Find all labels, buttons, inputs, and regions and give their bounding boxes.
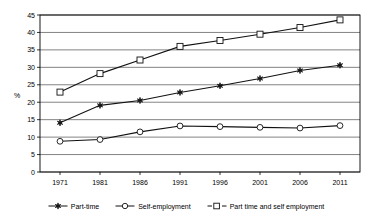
legend-item-1[interactable]: Part-time (48, 201, 99, 211)
data-point-marker (177, 43, 183, 49)
data-point-marker (57, 138, 63, 144)
data-point-marker (57, 120, 62, 126)
y-tick-label: 45 (27, 12, 35, 19)
plot-frame (40, 15, 360, 172)
y-tick-label: 0 (31, 169, 35, 176)
x-tick-label: 1971 (52, 179, 68, 186)
y-tick-label: 30 (27, 64, 35, 71)
x-tick-label: 2001 (252, 179, 268, 186)
legend-circle-open-icon (115, 201, 135, 211)
chart-legend: Part-timeSelf-employmentPart time and se… (0, 196, 372, 216)
legend-label: Self-employment (138, 203, 191, 210)
legend-star-filled-icon (48, 201, 68, 211)
data-point-marker (337, 17, 343, 23)
y-tick-label: 10 (27, 134, 35, 141)
y-tick-label: 40 (27, 29, 35, 36)
data-point-marker (337, 123, 343, 129)
data-point-marker (97, 71, 103, 77)
x-tick-label: 1986 (132, 179, 148, 186)
y-tick-label: 25 (27, 81, 35, 88)
y-axis-title: % (14, 92, 20, 99)
legend-square-open-icon (207, 201, 227, 211)
legend-label: Part-time (71, 203, 99, 210)
data-point-marker (97, 137, 103, 143)
data-point-marker (257, 124, 263, 130)
x-tick-label: 2011 (332, 179, 347, 186)
chart-plot-area: 051015202530354045%197119811986199119962… (0, 0, 372, 196)
y-tick-label: 20 (27, 99, 35, 106)
line-chart: 051015202530354045%197119811986199119962… (0, 0, 372, 219)
data-point-marker (297, 125, 303, 131)
y-tick-label: 5 (31, 151, 35, 158)
legend-label: Part time and self employment (230, 203, 325, 210)
legend-item-2[interactable]: Self-employment (115, 201, 191, 211)
legend-item-3[interactable]: Part time and self employment (207, 201, 325, 211)
data-point-marker (137, 57, 143, 63)
y-tick-label: 15 (27, 116, 35, 123)
data-point-marker (137, 129, 143, 135)
x-tick-label: 1991 (172, 179, 188, 186)
data-point-marker (217, 37, 223, 43)
x-tick-label: 1981 (92, 179, 108, 186)
y-tick-label: 35 (27, 46, 35, 53)
data-point-marker (297, 25, 303, 31)
data-point-marker (257, 31, 263, 37)
data-point-marker (177, 123, 183, 129)
x-tick-label: 1996 (212, 179, 228, 186)
data-point-marker (57, 89, 63, 95)
x-tick-label: 2006 (292, 179, 308, 186)
data-point-marker (217, 124, 223, 130)
